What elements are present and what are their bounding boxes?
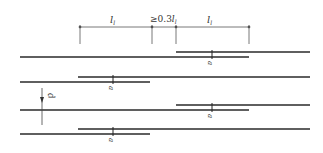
tick-dot — [248, 26, 250, 28]
spacing-marks — [113, 50, 212, 136]
arrow-down-icon — [40, 97, 44, 103]
splice-label-4: a — [107, 138, 115, 142]
splice-labels: a a a a — [107, 61, 214, 142]
dimension-row — [79, 25, 250, 44]
splice-label-1: a — [206, 61, 214, 65]
splice-label-2: a — [107, 86, 115, 90]
tick-dot — [175, 26, 177, 28]
splice-label-3: a — [206, 114, 214, 118]
lap-length-label-2: ll — [207, 14, 212, 26]
bars — [20, 52, 310, 134]
spacing-label: d — [46, 92, 57, 100]
tick-dot — [151, 26, 153, 28]
bar-spacing-dimension: d — [40, 88, 57, 125]
diagram-svg: ll ≥0.3ll ll a a a a d — [0, 0, 323, 153]
lap-length-label-1: ll — [110, 14, 115, 26]
min-gap-label: ≥0.3ll — [150, 14, 177, 25]
tick-dot — [79, 26, 81, 28]
lap-splice-diagram: ll ≥0.3ll ll a a a a d — [0, 0, 323, 153]
